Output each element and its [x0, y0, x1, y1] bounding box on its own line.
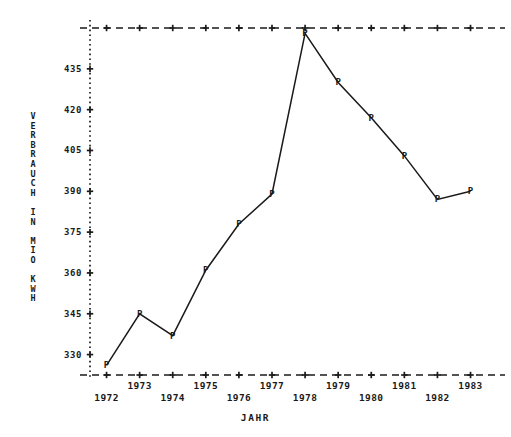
x-tick-top-1979 — [335, 25, 341, 31]
x-tick-1973 — [136, 372, 142, 378]
x-tick-label-1980: 1980 — [351, 392, 391, 403]
x-tick-top-1976 — [236, 25, 242, 31]
y-title-letter: O — [24, 256, 42, 266]
x-tick-1974 — [170, 372, 176, 378]
y-tick-label-375: 375 — [48, 227, 82, 237]
y-title-letter: H — [24, 294, 42, 304]
y-tick-420 — [87, 106, 93, 112]
x-tick-label-1983: 1983 — [451, 380, 491, 391]
data-point-marker-1974: P — [170, 331, 175, 340]
x-axis-title: JAHR — [0, 412, 511, 423]
x-tick-label-1972: 1972 — [87, 392, 127, 403]
y-tick-label-420: 420 — [48, 105, 82, 115]
x-tick-label-1975: 1975 — [186, 380, 226, 391]
y-title-letter: H — [24, 189, 42, 199]
y-tick-405 — [87, 147, 93, 153]
y-tick-label-390: 390 — [48, 186, 82, 196]
x-tick-label-1981: 1981 — [384, 380, 424, 391]
data-point-marker-1983: P — [468, 187, 473, 196]
y-tick-label-345: 345 — [48, 309, 82, 319]
x-tick-label-1982: 1982 — [417, 392, 457, 403]
x-tick-1979 — [335, 372, 341, 378]
x-tick-1982 — [434, 372, 440, 378]
y-tick-label-330: 330 — [48, 350, 82, 360]
x-tick-1972 — [103, 372, 109, 378]
x-tick-label-1973: 1973 — [120, 380, 160, 391]
data-point-marker-1980: P — [369, 113, 374, 122]
x-tick-top-1980 — [368, 25, 374, 31]
y-tick-330 — [87, 351, 93, 357]
x-tick-1983 — [467, 372, 473, 378]
series-line-layer — [107, 33, 471, 365]
x-tick-1981 — [401, 372, 407, 378]
x-tick-label-1977: 1977 — [252, 380, 292, 391]
data-point-marker-1972: P — [104, 361, 109, 370]
y-axis-title: VERBRAUCHINMIOKWH — [24, 112, 42, 304]
x-tick-top-1981 — [401, 25, 407, 31]
x-tick-top-1972 — [103, 25, 109, 31]
x-tick-1976 — [236, 372, 242, 378]
y-tick-345 — [87, 311, 93, 317]
x-tick-top-1974 — [170, 25, 176, 31]
data-point-marker-1979: P — [335, 78, 340, 87]
y-tick-360 — [87, 270, 93, 276]
y-title-letter: N — [24, 218, 42, 228]
x-tick-1978 — [302, 372, 308, 378]
y-tick-435 — [87, 66, 93, 72]
line-chart: VERBRAUCHINMIOKWH 3303453603753904054204… — [0, 0, 511, 437]
x-tick-label-1974: 1974 — [153, 392, 193, 403]
x-tick-label-1978: 1978 — [285, 392, 325, 403]
y-tick-label-435: 435 — [48, 64, 82, 74]
x-tick-top-1975 — [203, 25, 209, 31]
x-tick-top-1982 — [434, 25, 440, 31]
x-tick-top-1977 — [269, 25, 275, 31]
x-tick-label-1976: 1976 — [219, 392, 259, 403]
x-tick-1977 — [269, 372, 275, 378]
y-tick-label-405: 405 — [48, 145, 82, 155]
x-tick-1980 — [368, 372, 374, 378]
data-point-marker-1977: P — [269, 190, 274, 199]
data-series-line — [107, 33, 471, 365]
data-point-marker-1978: P — [302, 29, 307, 38]
data-point-marker-1975: P — [203, 266, 208, 275]
x-tick-top-1973 — [136, 25, 142, 31]
y-tick-390 — [87, 188, 93, 194]
y-tick-label-360: 360 — [48, 268, 82, 278]
y-tick-375 — [87, 229, 93, 235]
data-point-marker-1976: P — [236, 219, 241, 228]
x-tick-label-1979: 1979 — [318, 380, 358, 391]
data-point-marker-1981: P — [402, 151, 407, 160]
data-point-marker-1973: P — [137, 309, 142, 318]
data-point-marker-1982: P — [435, 195, 440, 204]
x-tick-top-1983 — [467, 25, 473, 31]
x-tick-1975 — [203, 372, 209, 378]
